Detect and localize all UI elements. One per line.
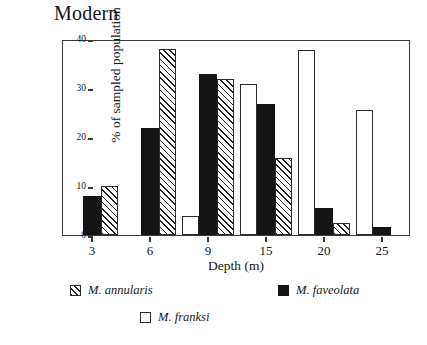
legend-label-franksi: M. franksi — [158, 310, 209, 325]
legend-swatch-hatch-icon — [70, 285, 81, 296]
bar-white-15 — [240, 84, 258, 235]
x-tick-mark — [91, 237, 92, 242]
x-tick-label: 25 — [362, 243, 402, 259]
y-tick-label: 10 — [77, 181, 87, 191]
legend-item-franksi: M. franksi — [140, 310, 209, 325]
x-tick-label: 20 — [304, 243, 344, 259]
bar-black-25 — [373, 227, 391, 235]
bar-black-20 — [315, 208, 333, 235]
legend-label-annularis: M. annularis — [88, 283, 153, 298]
legend-item-annularis: M. annularis — [70, 283, 153, 298]
x-tick-mark — [149, 237, 150, 242]
y-tick-label: 40 — [77, 34, 87, 44]
legend-swatch-white-icon — [140, 312, 151, 323]
legend-swatch-black-icon — [278, 285, 289, 296]
bar-black-3 — [83, 196, 101, 235]
x-tick-label: 3 — [72, 243, 112, 259]
bar-white-20 — [298, 50, 316, 235]
y-axis-label: % of sampled population — [108, 0, 124, 175]
legend-label-faveolata: M. faveolata — [296, 283, 359, 298]
bar-hatch-6 — [159, 49, 177, 235]
x-tick-mark — [207, 237, 208, 242]
y-tick-label: 20 — [77, 132, 87, 142]
x-tick-mark — [265, 237, 266, 242]
x-tick-label: 6 — [130, 243, 170, 259]
bar-white-25 — [356, 110, 374, 235]
bar-hatch-15 — [275, 158, 293, 235]
x-tick-mark — [323, 237, 324, 242]
plot-area: % of sampled population 010203040 369152… — [62, 40, 410, 236]
y-tick-mark — [88, 89, 93, 90]
x-tick-mark — [381, 237, 382, 242]
y-tick-mark — [88, 40, 93, 41]
legend-item-faveolata: M. faveolata — [278, 283, 359, 298]
y-tick-label: 30 — [77, 83, 87, 93]
bar-hatch-3 — [101, 186, 119, 235]
bar-hatch-9 — [217, 79, 235, 235]
x-tick-label: 15 — [246, 243, 286, 259]
bar-hatch-20 — [333, 223, 351, 235]
bar-black-9 — [199, 74, 217, 235]
x-tick-label: 9 — [188, 243, 228, 259]
y-tick-mark — [88, 187, 93, 188]
bar-black-6 — [141, 128, 159, 235]
bar-white-9 — [182, 216, 200, 235]
x-axis-label: Depth (m) — [62, 258, 410, 274]
bar-black-15 — [257, 104, 275, 235]
chart-page: Modern % of sampled population 010203040… — [0, 0, 427, 345]
y-tick-mark — [88, 138, 93, 139]
